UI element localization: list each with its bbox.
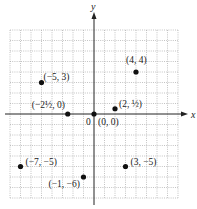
point-marker [133,69,138,74]
point-label: (3, −5) [131,157,157,168]
point-marker [65,111,70,116]
data-point: (4, 4) [126,55,147,75]
y-axis-arrow-icon [92,12,97,19]
x-axis-arrow-icon [181,112,188,117]
data-point: (−7, −5) [18,157,57,170]
point-label: (2, ½) [119,99,142,110]
point-marker [18,164,23,169]
point-marker [91,111,96,116]
point-marker [112,106,117,111]
data-point: (−5, 3) [39,72,70,86]
point-label: (4, 4) [126,55,147,66]
point-label: (−1, −6) [49,179,80,190]
point-label: (−2½, 0) [32,100,65,111]
x-axis-label: x [190,109,196,120]
origin-label: 0 [86,117,91,127]
point-marker [123,164,128,169]
coordinate-plane: x y 0 (0, 0)(4, 4)(−5, 3)(−2½, 0)(2, ½)(… [0,0,197,209]
y-axis-label: y [90,1,96,12]
data-point: (3, −5) [123,157,157,170]
point-marker [81,174,86,179]
point-label: (0, 0) [98,117,119,128]
data-point: (2, ½) [112,99,142,112]
point-label: (−7, −5) [26,157,57,168]
point-label: (−5, 3) [44,72,70,83]
